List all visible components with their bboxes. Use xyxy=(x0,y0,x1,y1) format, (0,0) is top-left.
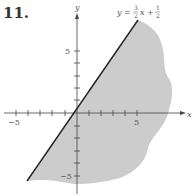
svg-text:3: 3 xyxy=(134,4,138,11)
x-axis-label: x xyxy=(187,110,192,119)
svg-text:2: 2 xyxy=(156,12,160,19)
svg-text:2: 2 xyxy=(134,12,138,19)
svg-text:x: x xyxy=(140,8,145,17)
shaded-region xyxy=(27,20,172,184)
svg-text:1: 1 xyxy=(156,4,160,11)
y-tick-label-5: 5 xyxy=(65,47,70,56)
y-tick-label-neg5: −5 xyxy=(60,172,72,181)
equation-label: y = 3 2 x + 1 2 xyxy=(116,4,160,19)
x-tick-label-5: 5 xyxy=(134,118,139,127)
svg-text:+: + xyxy=(147,8,154,17)
y-axis-label: y xyxy=(74,3,80,12)
x-tick-label-neg5: −5 xyxy=(8,118,20,127)
svg-text:=: = xyxy=(124,8,131,17)
inequality-graph: −5 5 x 5 −5 y y = 3 2 x + 1 xyxy=(0,0,192,196)
svg-text:y: y xyxy=(116,8,122,17)
